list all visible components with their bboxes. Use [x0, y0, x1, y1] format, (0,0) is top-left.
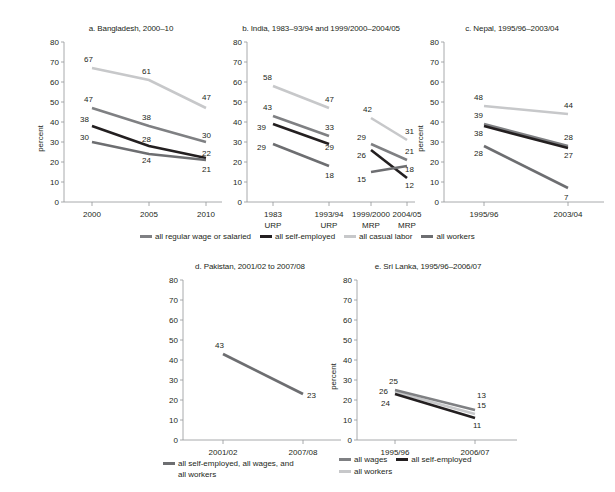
ytick-40: 40: [169, 356, 178, 365]
panel-d-series-combined: [223, 354, 303, 394]
legend-swatch-casual-labor: [344, 235, 356, 238]
ytick-0: 0: [435, 198, 440, 207]
dlabel-urp-workers-2: 18: [325, 171, 334, 180]
dlabel-casual-2010: 47: [202, 93, 211, 102]
legend-item-casual-labor[interactable]: all casual labor: [344, 231, 412, 242]
legend-label-workers: all workers: [436, 231, 474, 242]
panel-b-urp-series-casual-labor: [273, 86, 329, 108]
panel-c-plot: 80 70 60 50 40 30 20 10 0: [412, 36, 608, 221]
panel-a-bangladesh: a. Bangladesh, 2000–10 percent 80 70 60 …: [36, 24, 226, 224]
panel-b-plot: 80 70 60 50 40 30 20 10 0: [225, 36, 417, 231]
dlabel-mrp-regular-1: 29: [357, 133, 366, 142]
dlabel-self-2: 27: [564, 151, 573, 160]
dlabel-regular-2: 28: [564, 133, 573, 142]
ytick-80: 80: [233, 38, 242, 47]
ytick-50: 50: [430, 98, 439, 107]
dlabel-self-2010: 22: [202, 149, 211, 158]
xsub-urp-1: URP: [265, 221, 282, 230]
xtick-2010: 2010: [197, 210, 215, 219]
legend-swatch-regular-wage: [140, 235, 152, 238]
dlabel-casual-1: 48: [474, 93, 483, 102]
dlabel-combined-2: 23: [307, 391, 316, 400]
dlabel-casual-2: 44: [564, 101, 573, 110]
ytick-50: 50: [169, 336, 178, 345]
panel-b-yaxis: 80 70 60 50 40 30 20 10 0: [233, 38, 247, 207]
legend-item-all-wages[interactable]: all wages: [339, 454, 387, 465]
panel-b-mrp-series-self-employed: [371, 150, 407, 178]
ytick-0: 0: [174, 436, 179, 445]
legend-panel-e: all wages all self-employed all workers: [339, 454, 480, 477]
xtick-2005: 2005: [140, 210, 158, 219]
dlabel-workers-2010: 21: [202, 165, 211, 174]
legend-item-regular-wage[interactable]: all regular wage or salaried: [140, 231, 251, 242]
panel-d-yaxis: 80 70 60 50 40 30 20 10 0: [169, 276, 183, 445]
dlabel-regular-1: 39: [474, 111, 483, 120]
panel-c-nepal: c. Nepal, 1995/96–2003/04 percent 80 70 …: [412, 24, 608, 224]
legend-swatch-all-wages: [339, 458, 351, 461]
ytick-30: 30: [50, 138, 59, 147]
ytick-20: 20: [169, 396, 178, 405]
panel-a-xaxis: 2000 2005 2010: [64, 202, 222, 219]
dlabel-urp-casual-2: 47: [325, 95, 334, 104]
ytick-70: 70: [50, 58, 59, 67]
dlabel-casual-2005: 61: [142, 67, 151, 76]
dlabel-mrp-casual-1: 42: [363, 105, 372, 114]
panel-d-title: d. Pakistan, 2001/02 to 2007/08: [155, 262, 345, 271]
ytick-0: 0: [238, 198, 243, 207]
dlabel-urp-self-1: 39: [257, 123, 266, 132]
dlabel-workers-2005: 24: [142, 156, 151, 165]
panel-b-india: b. India, 1983–93/94 and 1999/2000–2004/…: [225, 24, 417, 224]
legend-label-combined-line2: all workers: [178, 470, 216, 479]
ytick-60: 60: [430, 78, 439, 87]
panel-a-title: a. Bangladesh, 2000–10: [36, 24, 226, 33]
panel-b-mrp-series-workers: [371, 166, 407, 172]
panel-d-xaxis: 2001/02 2007/08: [183, 440, 341, 457]
panel-d-plot: 80 70 60 50 40 30 20 10 0: [155, 274, 345, 459]
ytick-10: 10: [233, 178, 242, 187]
legend-label-casual-labor: all casual labor: [359, 231, 412, 242]
dlabel-casual-2000: 67: [84, 55, 93, 64]
panel-b-title: b. India, 1983–93/94 and 1999/2000–2004/…: [225, 24, 417, 33]
xtick-2001-02: 2001/02: [209, 448, 238, 457]
xtick-2000: 2000: [83, 210, 101, 219]
xtick-1995-96: 1995/96: [470, 210, 499, 219]
dlabel-regular-2010: 30: [202, 131, 211, 140]
dlabel-wages-1: 25: [389, 377, 398, 386]
ytick-60: 60: [233, 78, 242, 87]
legend-label-all-wages: all wages: [354, 454, 387, 465]
panel-d-data-labels: 43 23: [215, 341, 316, 400]
dlabel-workers-1: 28: [474, 149, 483, 158]
legend-swatch-workers: [421, 235, 433, 238]
xsub-urp-2: URP: [321, 221, 338, 230]
legend-label-combined-line1: all self-employed, all wages, and: [178, 459, 294, 468]
ytick-80: 80: [343, 276, 352, 285]
dlabel-combined-1: 43: [215, 341, 224, 350]
ytick-50: 50: [233, 98, 242, 107]
ytick-40: 40: [430, 118, 439, 127]
ytick-30: 30: [343, 376, 352, 385]
legend-item-combined[interactable]: all self-employed, all wages, and all wo…: [163, 458, 294, 480]
ytick-70: 70: [169, 296, 178, 305]
legend-main: all regular wage or salaried all self-em…: [140, 231, 484, 242]
ytick-30: 30: [233, 138, 242, 147]
ytick-70: 70: [430, 58, 439, 67]
ytick-10: 10: [50, 178, 59, 187]
panel-b-mrp-series-regular-wage: [371, 144, 407, 160]
dlabel-regular-2005: 38: [142, 113, 151, 122]
panel-d-pakistan: d. Pakistan, 2001/02 to 2007/08 80 70 60…: [155, 262, 345, 462]
ytick-10: 10: [430, 178, 439, 187]
xtick-1983: 1983: [264, 210, 282, 219]
figure-root: a. Bangladesh, 2000–10 percent 80 70 60 …: [0, 0, 615, 492]
legend-swatch-e-self-employed: [396, 458, 408, 461]
panel-c-series-casual-labor: [484, 106, 568, 114]
legend-item-e-all-workers[interactable]: all workers: [339, 466, 392, 477]
dlabel-urp-workers-1: 29: [257, 143, 266, 152]
legend-item-workers[interactable]: all workers: [421, 231, 474, 242]
ytick-0: 0: [348, 436, 353, 445]
dlabel-urp-regular-1: 43: [263, 103, 272, 112]
legend-item-self-employed[interactable]: all self-employed: [260, 231, 335, 242]
panel-b-urp-series-workers: [273, 144, 329, 166]
panel-e-title: e. Sri Lanka, 1995/96–2006/07: [343, 262, 513, 271]
dlabel-workers-2: 7: [564, 193, 569, 202]
legend-item-e-self-employed[interactable]: all self-employed: [396, 454, 471, 465]
